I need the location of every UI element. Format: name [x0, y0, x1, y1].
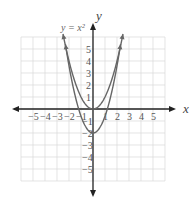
y-tick-label: −4: [82, 152, 93, 163]
coordinate-plane: −5−4−3−2−11234554321−1−2−3−4−5 x y y = x…: [0, 0, 194, 202]
y-tick-label: 2: [86, 80, 91, 91]
x-tick-label: −4: [40, 111, 51, 122]
y-axis-down-arrow: [90, 190, 96, 197]
y-tick-label: 3: [86, 68, 91, 79]
x-tick-label: 2: [115, 111, 120, 122]
y-tick-label: 1: [86, 92, 91, 103]
x-tick-label: 5: [151, 111, 156, 122]
x-axis-label: x: [182, 101, 189, 116]
x-tick-label: 4: [139, 111, 144, 122]
x-axis-left-arrow: [12, 106, 19, 112]
x-tick-label: 3: [127, 111, 132, 122]
y-axis-label: y: [94, 8, 102, 23]
x-tick-label: −2: [64, 111, 75, 122]
y-tick-label: 5: [86, 44, 91, 55]
y-tick-label: 4: [86, 56, 91, 67]
x-axis-right-arrow: [169, 106, 176, 112]
curve-label-y-equals-x-squared: y = x²: [60, 22, 86, 33]
y-tick-label: −5: [82, 164, 93, 175]
x-tick-label: −5: [28, 111, 39, 122]
x-tick-label: −3: [52, 111, 63, 122]
y-axis-up-arrow: [90, 23, 96, 30]
y-tick-label: −3: [82, 140, 93, 151]
